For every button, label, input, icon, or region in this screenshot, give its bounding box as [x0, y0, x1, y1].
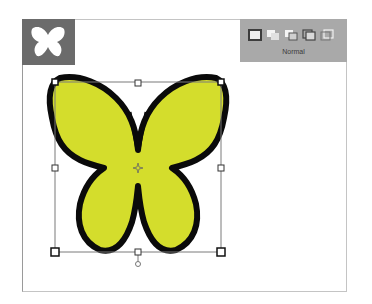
rotate-handle	[136, 262, 141, 267]
handle-bottom-right	[217, 248, 225, 256]
handle-top-left	[52, 79, 58, 85]
handle-top-mid	[135, 80, 141, 86]
handle-mid-right	[218, 165, 224, 171]
butterfly-artwork[interactable]	[0, 0, 372, 304]
handle-bottom-mid	[135, 249, 141, 255]
handle-bottom-left	[51, 248, 59, 256]
handle-top-right	[218, 79, 224, 85]
handle-mid-left	[52, 165, 58, 171]
